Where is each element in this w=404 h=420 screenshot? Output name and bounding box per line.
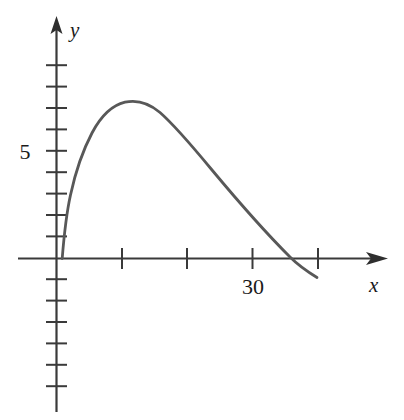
- plot-curve: [62, 101, 317, 277]
- x-axis-label: x: [368, 273, 379, 297]
- function-graph: y x 5 30: [0, 0, 404, 420]
- x-tick-label-30: 30: [242, 274, 264, 299]
- y-axis-label: y: [68, 18, 80, 42]
- y-tick-label-5: 5: [20, 139, 31, 164]
